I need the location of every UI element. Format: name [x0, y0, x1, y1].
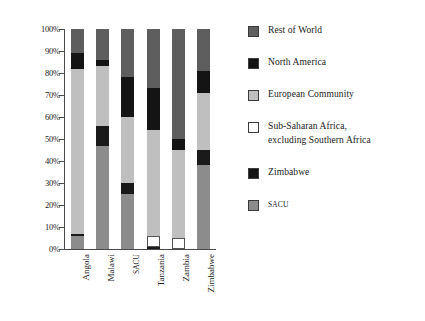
legend-label: Zimbabwe	[268, 166, 309, 180]
x-tick-label-angola: Angola	[82, 254, 91, 281]
y-tick-label: 90%	[45, 47, 60, 56]
y-tick-label: 40%	[45, 157, 60, 166]
bar-slot-tanzania	[141, 29, 166, 249]
legend-item[interactable]: Sub-Saharan Africa,excluding Southern Af…	[248, 120, 425, 147]
bar-slot-sacu	[115, 29, 140, 249]
y-tick-mark	[59, 183, 64, 184]
x-tick-label-sacu: SACU	[132, 254, 141, 274]
legend-swatch-icon	[248, 168, 259, 179]
bar-segment[interactable]	[147, 29, 160, 88]
legend-item[interactable]: Zimbabwe	[248, 166, 425, 180]
bar-segment[interactable]	[172, 150, 185, 238]
bar-segment[interactable]	[96, 60, 109, 67]
bar-segment[interactable]	[71, 236, 84, 249]
bar-segment[interactable]	[147, 236, 160, 247]
y-tick-label: 30%	[45, 179, 60, 188]
bar-segment[interactable]	[71, 234, 84, 236]
bar-slot-malawi	[90, 29, 115, 249]
bar-segment[interactable]	[71, 69, 84, 234]
bar-slot-angola	[65, 29, 90, 249]
legend-item[interactable]: North America	[248, 56, 425, 70]
y-tick-mark	[59, 249, 64, 250]
y-axis-tick-labels: 0%10%20%30%40%50%60%70%80%90%100%	[22, 0, 60, 321]
bar-segment[interactable]	[121, 183, 134, 194]
y-tick-mark	[59, 95, 64, 96]
legend-item[interactable]: Rest of World	[248, 24, 425, 38]
legend-swatch-icon	[248, 58, 259, 69]
legend-swatch-icon	[248, 200, 259, 211]
bar-segment[interactable]	[147, 88, 160, 130]
y-tick-label: 80%	[45, 69, 60, 78]
legend-label: SACU	[268, 198, 288, 212]
bar-segment[interactable]	[121, 194, 134, 249]
bar-segment[interactable]	[172, 238, 185, 249]
bar-segment[interactable]	[121, 77, 134, 117]
bar-segment[interactable]	[147, 130, 160, 236]
x-tick-label-tanzania: Tanzania	[157, 254, 166, 286]
x-axis-tick-labels: AngolaMalawiSACUTanzaniaZambiaZimbabwe	[65, 252, 216, 321]
bar-segment[interactable]	[197, 93, 210, 150]
y-tick-mark	[59, 73, 64, 74]
y-tick-label: 70%	[45, 91, 60, 100]
x-tick-label-zimbabwe: Zimbabwe	[207, 254, 216, 293]
y-tick-label: 20%	[45, 201, 60, 210]
bar-segment[interactable]	[71, 53, 84, 68]
legend-item[interactable]: European Community	[248, 88, 425, 102]
bar-segment[interactable]	[197, 71, 210, 93]
x-tick-label-zambia: Zambia	[182, 254, 191, 282]
y-tick-mark	[59, 117, 64, 118]
legend-label: European Community	[268, 88, 354, 102]
bar-segment[interactable]	[197, 165, 210, 249]
plot-area: 0%10%20%30%40%50%60%70%80%90%100% Angola…	[0, 0, 240, 321]
y-tick-label: 10%	[45, 223, 60, 232]
bar-segment[interactable]	[121, 117, 134, 183]
legend-label: North America	[268, 56, 326, 70]
bar-slot-zimbabwe	[191, 29, 216, 249]
y-tick-mark	[59, 29, 64, 30]
bar-segment[interactable]	[197, 150, 210, 165]
legend-item[interactable]: SACU	[248, 198, 425, 212]
bar-segment[interactable]	[172, 139, 185, 150]
bar-segment[interactable]	[121, 29, 134, 77]
bar-segment[interactable]	[172, 29, 185, 139]
y-tick-label: 50%	[45, 135, 60, 144]
y-tick-mark	[59, 51, 64, 52]
y-tick-mark	[59, 205, 64, 206]
y-tick-mark	[59, 161, 64, 162]
stacked-bar[interactable]	[71, 29, 84, 249]
stacked-bar[interactable]	[172, 29, 185, 249]
chart-legend: Rest of WorldNorth AmericaEuropean Commu…	[248, 24, 425, 230]
bar-segment[interactable]	[96, 126, 109, 146]
x-tick-label-malawi: Malawi	[107, 254, 116, 282]
legend-swatch-icon	[248, 122, 259, 133]
legend-label: Sub-Saharan Africa,excluding Southern Af…	[268, 120, 371, 147]
bar-segment[interactable]	[96, 146, 109, 249]
legend-swatch-icon	[248, 26, 259, 37]
stacked-bar[interactable]	[121, 29, 134, 249]
bar-segment[interactable]	[147, 247, 160, 249]
legend-label-line2: excluding Southern Africa	[268, 134, 371, 148]
stacked-bar[interactable]	[147, 29, 160, 249]
stacked-bar[interactable]	[96, 29, 109, 249]
y-tick-label: 100%	[41, 25, 60, 34]
y-tick-label: 60%	[45, 113, 60, 122]
stacked-bar[interactable]	[197, 29, 210, 249]
bars-container	[65, 29, 216, 249]
bar-segment[interactable]	[96, 66, 109, 125]
stacked-bar-chart: 0%10%20%30%40%50%60%70%80%90%100% Angola…	[0, 0, 425, 321]
bar-segment[interactable]	[197, 29, 210, 71]
legend-label: Rest of World	[268, 24, 322, 38]
legend-swatch-icon	[248, 90, 259, 101]
y-tick-mark	[59, 227, 64, 228]
bar-slot-zambia	[166, 29, 191, 249]
x-axis-line	[64, 249, 216, 250]
bar-segment[interactable]	[96, 29, 109, 60]
bar-segment[interactable]	[71, 29, 84, 53]
y-tick-mark	[59, 139, 64, 140]
